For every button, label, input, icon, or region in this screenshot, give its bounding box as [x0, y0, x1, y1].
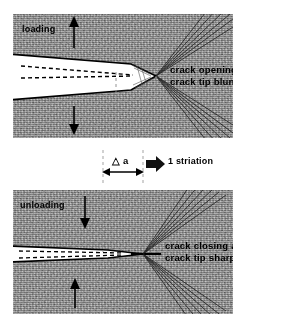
description-line-1-bottom: crack closing and — [165, 240, 233, 252]
panel-unloading-description: crack closing and crack tip sharpening — [165, 240, 233, 264]
panel-loading: loading crack opening and crack tip blun… — [13, 14, 233, 138]
arrow-down-icon-lower — [69, 106, 79, 135]
description-line-2-bottom: crack tip sharpening — [165, 252, 233, 264]
description-line-2: crack tip blunting — [170, 76, 233, 88]
delta-a-label: △ a — [112, 155, 129, 167]
striation-result-label: 1 striation — [168, 156, 213, 167]
panel-unloading-stage-label: unloading — [20, 200, 65, 211]
fatigue-crack-growth-figure: loading crack opening and crack tip blun… — [0, 0, 287, 329]
panel-unloading: unloading crack closing and crack tip sh… — [13, 190, 233, 314]
description-line-1: crack opening and — [170, 64, 233, 76]
block-arrow-right-icon — [146, 156, 165, 172]
delta-a-annotation: △ a 1 striation — [92, 150, 222, 186]
arrow-down-icon — [80, 196, 90, 229]
panel-loading-description: crack opening and crack tip blunting — [170, 64, 233, 88]
double-headed-arrow-icon — [102, 168, 144, 176]
arrow-up-icon-lower — [70, 278, 80, 308]
arrow-up-icon — [69, 16, 79, 48]
panel-loading-stage-label: loading — [22, 24, 55, 35]
